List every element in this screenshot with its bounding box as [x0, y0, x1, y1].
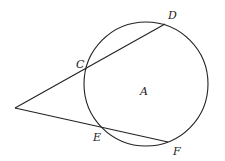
label-point-D: D — [167, 9, 177, 22]
label-point-C: C — [76, 58, 85, 71]
label-point-F: F — [172, 145, 181, 158]
secant-circle-diagram: D C A E F — [0, 0, 225, 161]
label-center-A: A — [139, 85, 148, 98]
label-point-E: E — [92, 131, 101, 144]
